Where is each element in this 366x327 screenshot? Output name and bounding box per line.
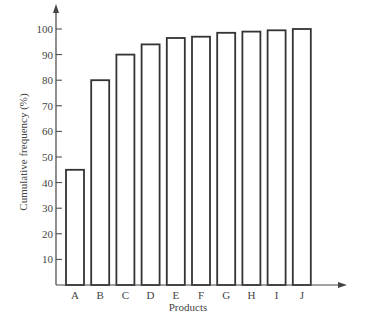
x-tick-label-d: D	[147, 289, 155, 301]
bar-d	[142, 44, 160, 285]
cumulative-frequency-bar-chart: 102030405060708090100 ABCDEFGHIJ Product…	[0, 0, 366, 327]
x-tick-label-e: E	[172, 289, 179, 301]
bar-a	[66, 170, 84, 285]
bar-e	[167, 38, 185, 285]
bar-j	[293, 29, 311, 285]
x-tick-label-a: A	[71, 289, 79, 301]
y-tick-label-30: 30	[42, 202, 54, 214]
bars-group	[66, 29, 311, 285]
x-tick-label-g: G	[222, 289, 230, 301]
x-tick-label-h: H	[247, 289, 255, 301]
bar-i	[268, 30, 286, 285]
x-tick-label-i: I	[275, 289, 279, 301]
y-tick-label-60: 60	[42, 125, 54, 137]
y-tick-label-20: 20	[42, 228, 54, 240]
x-tick-label-c: C	[122, 289, 129, 301]
x-tick-label-j: J	[300, 289, 305, 301]
bar-b	[91, 80, 109, 285]
y-axis-ticks: 102030405060708090100	[37, 23, 63, 265]
y-tick-label-90: 90	[42, 49, 54, 61]
bar-f	[192, 37, 210, 285]
x-tick-label-f: F	[198, 289, 204, 301]
y-tick-label-80: 80	[42, 74, 54, 86]
y-axis-title: Cumulative frequency (%)	[17, 93, 30, 211]
bar-c	[116, 55, 134, 285]
x-tick-label-b: B	[97, 289, 104, 301]
y-tick-label-40: 40	[42, 177, 54, 189]
x-axis-tick-labels: ABCDEFGHIJ	[71, 289, 305, 301]
x-axis-title: Products	[169, 301, 208, 313]
bar-h	[242, 32, 260, 285]
y-tick-label-100: 100	[37, 23, 54, 35]
y-tick-label-50: 50	[42, 151, 54, 163]
y-tick-label-70: 70	[42, 100, 54, 112]
y-tick-label-10: 10	[42, 253, 54, 265]
bar-g	[217, 33, 235, 285]
y-axis-arrow-icon	[53, 4, 59, 13]
x-axis-arrow-icon	[338, 282, 347, 288]
